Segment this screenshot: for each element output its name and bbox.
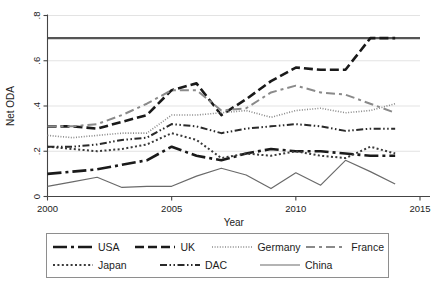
y-tick-label-4: .8 (31, 12, 42, 20)
legend-label-germany: Germany (257, 241, 300, 253)
y-tick-label-1: .2 (31, 147, 42, 155)
chart-screenshot: 0.2.4.6.82000200520102015YearNet ODA USA… (0, 0, 436, 285)
x-tick-label-0: 2000 (37, 203, 58, 214)
plot-area: 0.2.4.6.82000200520102015YearNet ODA (0, 0, 436, 232)
legend-swatch-usa-icon (53, 241, 93, 253)
y-tick-label-0: 0 (31, 194, 42, 199)
legend-label-china: China (305, 259, 332, 271)
legend-item-usa[interactable]: USA (53, 238, 135, 256)
legend-swatch-japan-icon (53, 259, 93, 271)
series-line-china (48, 160, 396, 188)
legend-label-uk: UK (180, 241, 195, 253)
series-line-uk (48, 38, 396, 129)
legend-label-france: France (351, 241, 384, 253)
legend-item-dac[interactable]: DAC (160, 256, 260, 274)
chart-legend: USAUKGermanyFranceJapanDACChina (46, 233, 389, 278)
legend-swatch-china-icon (260, 259, 300, 271)
x-tick-label-3: 2015 (409, 203, 430, 214)
series-line-usa (48, 147, 396, 174)
legend-item-germany[interactable]: Germany (212, 238, 306, 256)
legend-swatch-france-icon (306, 241, 346, 253)
legend-swatch-dac-icon (160, 259, 200, 271)
legend-swatch-germany-icon (212, 241, 252, 253)
x-tick-label-1: 2005 (161, 203, 182, 214)
y-tick-label-3: .6 (31, 57, 42, 65)
x-axis-title: Year (224, 217, 245, 228)
line-chart-svg: 0.2.4.6.82000200520102015YearNet ODA (0, 0, 436, 232)
y-axis-title: Net ODA (5, 86, 16, 126)
legend-item-uk[interactable]: UK (135, 238, 212, 256)
legend-label-japan: Japan (98, 259, 127, 271)
legend-item-france[interactable]: France (306, 238, 384, 256)
legend-swatch-uk-icon (135, 241, 175, 253)
legend-label-dac: DAC (205, 259, 227, 271)
legend-row: JapanDACChina (53, 256, 384, 274)
legend-item-china[interactable]: China (260, 256, 382, 274)
y-tick-label-2: .4 (31, 102, 42, 110)
x-tick-label-2: 2010 (285, 203, 306, 214)
legend-item-japan[interactable]: Japan (53, 256, 160, 274)
legend-row: USAUKGermanyFrance (53, 238, 384, 256)
legend-label-usa: USA (98, 241, 120, 253)
